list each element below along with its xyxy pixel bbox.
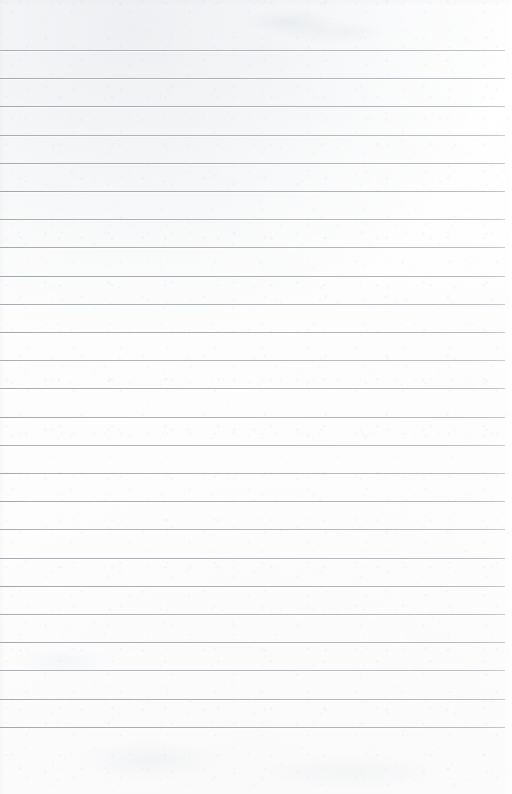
ruling-line (0, 473, 505, 474)
ruling-line (0, 558, 505, 559)
ruling-line (0, 106, 505, 107)
ruling-line (0, 388, 505, 389)
ruling-lines-group (0, 0, 512, 794)
ruling-line (0, 135, 505, 136)
ruling-line (0, 586, 505, 587)
ruling-line (0, 614, 505, 615)
ruling-line (0, 529, 505, 530)
ruling-line (0, 332, 505, 333)
ruling-line (0, 78, 505, 79)
ruling-line (0, 219, 505, 220)
lined-paper-sheet (0, 0, 512, 794)
ruling-line (0, 417, 505, 418)
ruling-line (0, 191, 505, 192)
ruling-line (0, 304, 505, 305)
ruling-line (0, 276, 505, 277)
ruling-line (0, 50, 505, 51)
ruling-line (0, 360, 505, 361)
ruling-line (0, 670, 505, 671)
ruling-line (0, 445, 505, 446)
ruling-line (0, 501, 505, 502)
ruling-line (0, 642, 505, 643)
ruling-line (0, 727, 505, 728)
ruling-line (0, 699, 505, 700)
ruling-line (0, 163, 505, 164)
ruling-line (0, 247, 505, 248)
